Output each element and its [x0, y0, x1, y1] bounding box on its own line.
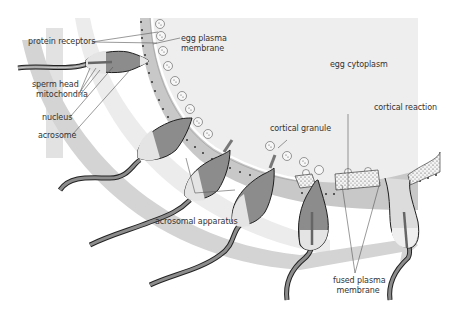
label-protein-receptors: protein receptors	[28, 37, 95, 46]
label-nucleus: nucleus	[42, 113, 72, 122]
label-fused-plasma-membrane-2: membrane	[333, 286, 383, 295]
diagram-canvas	[0, 0, 461, 322]
label-egg-cytoplasm: egg cytoplasm	[330, 60, 388, 69]
label-cortical-reaction: cortical reaction	[374, 103, 437, 112]
label-cortical-granule: cortical granule	[270, 124, 331, 133]
label-acrosome: acrosome	[38, 131, 76, 140]
fertilization-diagram: protein receptors egg plasma membrane eg…	[0, 0, 461, 322]
label-acrosomal-apparatus: acrosomal apparatus	[155, 217, 237, 226]
label-mitochondria: mitochondria	[36, 90, 88, 99]
label-egg-plasma-membrane-1: egg plasma	[181, 34, 227, 43]
label-fused-plasma-membrane-1: fused plasma	[333, 276, 383, 285]
label-sperm-head: sperm head	[32, 80, 79, 89]
label-egg-plasma-membrane-2: membrane	[181, 44, 224, 53]
